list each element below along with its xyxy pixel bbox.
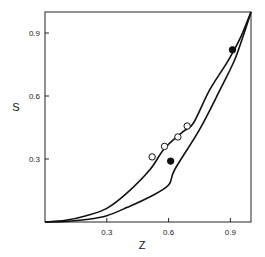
- y-tick-label: 0.6: [29, 92, 41, 101]
- x-axis-label: Z: [139, 239, 146, 251]
- filled-data-point: [229, 47, 235, 53]
- open-data-point: [149, 154, 155, 160]
- open-data-point: [184, 123, 190, 129]
- x-tick-label: 0.9: [225, 228, 237, 237]
- open-data-point: [175, 134, 181, 140]
- upper-curve: [45, 12, 251, 222]
- y-tick-label: 0.9: [29, 29, 41, 38]
- data-points: [149, 47, 236, 165]
- x-tick-label: 0.3: [101, 228, 113, 237]
- open-data-point: [161, 143, 167, 149]
- x-tick-label: 0.6: [163, 228, 175, 237]
- y-axis-label: S: [12, 101, 19, 113]
- lower-curve: [45, 12, 251, 222]
- curves: [45, 12, 251, 222]
- y-tick-label: 0.3: [29, 155, 41, 164]
- filled-data-point: [167, 158, 173, 164]
- plot-frame: [45, 12, 251, 222]
- chart: 0.30.60.90.30.60.9 Z S: [0, 0, 265, 257]
